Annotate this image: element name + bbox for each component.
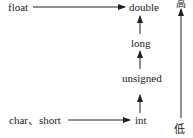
- scale-low-label: 低: [174, 123, 185, 135]
- node-char-short: char、short: [9, 114, 61, 126]
- node-unsigned: unsigned: [122, 72, 162, 84]
- node-double: double: [129, 1, 159, 13]
- node-int: int: [135, 114, 147, 126]
- node-float: float: [8, 1, 28, 13]
- node-long: long: [131, 37, 151, 49]
- scale-high-label: 高: [176, 0, 186, 10]
